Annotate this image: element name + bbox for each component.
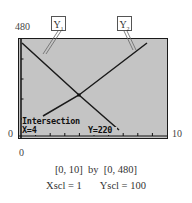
y1-callout-sub: 1 <box>61 26 64 32</box>
y1-callout: Y1 <box>51 16 66 31</box>
y1-callout-base: Y <box>53 19 60 30</box>
y2-callout: Y2 <box>117 16 132 31</box>
y-min-label: 0 <box>8 128 13 139</box>
x-min-label: 0 <box>19 147 24 158</box>
x-readout: X=4 <box>22 126 36 135</box>
callout-leaders <box>0 0 192 60</box>
scale-caption: Xscl = 1 Yscl = 100 <box>0 180 192 191</box>
y2-callout-sub: 2 <box>127 26 130 32</box>
window-caption: [0, 10] by [0, 480] <box>0 164 192 175</box>
x-max-label: 10 <box>172 128 182 139</box>
y-readout: Y=220 <box>88 126 112 135</box>
y2-callout-base: Y <box>119 19 126 30</box>
intersection-cursor <box>78 94 81 97</box>
